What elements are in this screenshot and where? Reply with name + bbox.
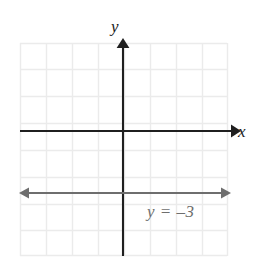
y-axis [117,38,130,256]
x-axis [20,125,241,138]
coordinate-plane: y x y = –3 [0,0,258,268]
line-equation-label: y = –3 [145,202,195,221]
graph-figure: y x y = –3 [0,0,258,268]
y-axis-label: y [109,17,119,36]
x-axis-label: x [237,122,246,141]
